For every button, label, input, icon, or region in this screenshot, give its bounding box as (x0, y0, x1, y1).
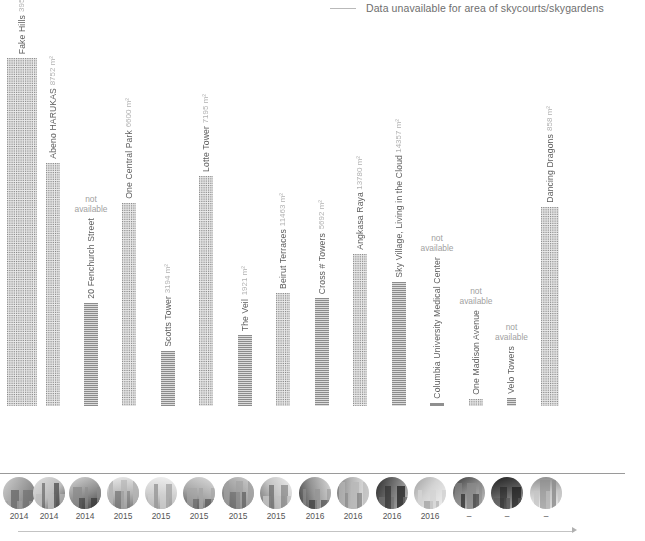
timeline-year-label: 2016 (383, 512, 402, 520)
bar[interactable] (469, 399, 483, 406)
bar[interactable] (276, 293, 290, 406)
timeline-entry: 2014 (3, 477, 35, 520)
timeline-entry: 2015 (222, 477, 254, 520)
bar-name-label: The Veil (241, 299, 250, 331)
timeline-year-label: 2016 (421, 512, 440, 520)
bar-value-label: notavailable (74, 195, 107, 214)
bar-name-label: Fake Hills (18, 15, 27, 54)
building-photo-thumbnail[interactable] (530, 477, 562, 509)
bar-group: 8752 m²Abeno HARUKAS (46, 56, 60, 406)
bar[interactable] (315, 298, 329, 406)
bar-group: 6600 m²One Central Park (122, 98, 136, 406)
bar[interactable] (161, 351, 175, 406)
timeline-year-label: 2016 (344, 512, 363, 520)
bar-name-label: Cross # Towers (318, 233, 327, 294)
bar-group: 395 m²Fake Hills (7, 0, 37, 406)
bar-name-label: Angkasa Raya (356, 192, 365, 250)
bar-group: notavailableOne Madison Avenue (469, 287, 483, 406)
timeline-arrow-icon (572, 527, 577, 533)
bar-group: 858 m²Dancing Dragons (541, 106, 559, 406)
building-photo-thumbnail[interactable] (414, 477, 446, 509)
bar-name-label: Dancing Dragons (546, 134, 555, 203)
building-photo-thumbnail[interactable] (299, 477, 331, 509)
bar[interactable] (507, 398, 516, 406)
timeline-year-label: 2014 (40, 512, 59, 520)
bar-value-label: 7195 m² (202, 94, 210, 123)
timeline-year-label: 2015 (229, 512, 248, 520)
bar-value-label: 858 m² (546, 106, 554, 131)
bar-value-label: 11463 m² (279, 193, 287, 226)
bar[interactable] (541, 207, 559, 406)
building-photo-thumbnail[interactable] (107, 477, 139, 509)
timeline-year-label: 2015 (114, 512, 133, 520)
building-photo-thumbnail[interactable] (260, 477, 292, 509)
timeline-entry: 2014 (69, 477, 101, 520)
baseline-axis (0, 473, 625, 474)
timeline-year-label: – (505, 512, 510, 520)
bar-value-label: 3194 m² (164, 264, 172, 293)
timeline-year-label: 2014 (10, 512, 29, 520)
timeline-year-label: 2016 (306, 512, 325, 520)
bar-name-label: 20 Fenchurch Street (87, 218, 96, 299)
bar-name-label: One Madison Avenue (472, 310, 481, 395)
bar[interactable] (392, 282, 406, 406)
timeline-entry: 2016 (376, 477, 408, 520)
building-photo-thumbnail[interactable] (491, 477, 523, 509)
timeline-entry: 2016 (337, 477, 369, 520)
building-photo-thumbnail[interactable] (337, 477, 369, 509)
timeline-year-label: – (544, 512, 549, 520)
bar-name-label: Scotts Tower (164, 296, 173, 347)
bar-name-label: Beirut Terraces (279, 229, 288, 289)
bar-value-label: 8752 m² (49, 56, 57, 85)
bar[interactable] (238, 335, 252, 406)
timeline-year-label: 2015 (267, 512, 286, 520)
bar-group: 3194 m²Scotts Tower (161, 264, 175, 406)
bar-name-label: One Central Park (125, 130, 134, 199)
bar-value-label: 5692 m² (318, 200, 326, 229)
timeline-entry: 2015 (260, 477, 292, 520)
bar[interactable] (199, 176, 213, 406)
bar-group: notavailableColumbia University Medical … (430, 234, 444, 406)
bar[interactable] (84, 303, 98, 406)
bar-value-label: notavailable (420, 234, 453, 253)
timeline-entry: 2015 (145, 477, 177, 520)
bar[interactable] (46, 163, 60, 406)
bar-value-label: 1921 m² (241, 266, 249, 295)
building-photo-thumbnail[interactable] (453, 477, 485, 509)
bar-group: notavailable20 Fenchurch Street (84, 195, 98, 406)
timeline-thumbnails: 2014201420142015201520152015201520162016… (0, 477, 645, 537)
bar-value-label: notavailable (495, 323, 528, 342)
building-photo-thumbnail[interactable] (69, 477, 101, 509)
bar[interactable] (430, 403, 444, 406)
skyscraper-timeline-chart: Data unavailable for area of skycourts/s… (0, 0, 645, 541)
bar[interactable] (353, 254, 367, 406)
building-photo-thumbnail[interactable] (33, 477, 65, 509)
timeline-entry: 2016 (299, 477, 331, 520)
building-photo-thumbnail[interactable] (145, 477, 177, 509)
bar-group: 1921 m²The Veil (238, 266, 252, 406)
bar-name-label: Sky Village, Living in the Cloud (395, 155, 404, 278)
bar[interactable] (7, 58, 37, 406)
timeline-axis (18, 531, 574, 532)
bar-group: 14357 m²Sky Village, Living in the Cloud (392, 119, 406, 406)
timeline-year-label: 2015 (152, 512, 171, 520)
bar[interactable] (122, 203, 136, 406)
building-photo-thumbnail[interactable] (376, 477, 408, 509)
bar-value-label: 395 m² (18, 0, 26, 12)
bar-name-label: Columbia University Medical Center (433, 257, 442, 399)
timeline-entry: – (530, 477, 562, 520)
timeline-year-label: 2014 (76, 512, 95, 520)
timeline-entry: 2015 (183, 477, 215, 520)
timeline-entry: – (491, 477, 523, 520)
bar-group: 7195 m²Lotte Tower (199, 94, 213, 406)
bar-value-label: 14357 m² (395, 119, 403, 153)
timeline-year-label: – (467, 512, 472, 520)
bar-group: notavailableVelo Towers (507, 323, 516, 406)
timeline-entry: 2014 (33, 477, 65, 520)
building-photo-thumbnail[interactable] (183, 477, 215, 509)
building-photo-thumbnail[interactable] (222, 477, 254, 509)
timeline-entry: 2016 (414, 477, 446, 520)
timeline-entry: 2015 (107, 477, 139, 520)
building-photo-thumbnail[interactable] (3, 477, 35, 509)
bar-group: 13780 m²Angkasa Raya (353, 156, 367, 407)
